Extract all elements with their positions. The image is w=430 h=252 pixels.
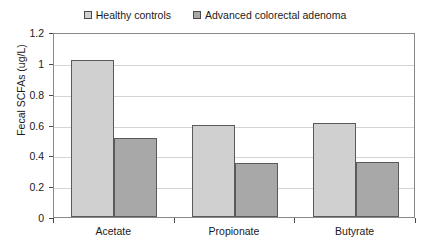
y-axis-tick-label: 1.2 xyxy=(8,28,44,39)
legend-entry-advanced-colorectal-adenoma: Advanced colorectal adenoma xyxy=(193,10,346,21)
chart-container: Healthy controls Advanced colorectal ade… xyxy=(0,0,430,252)
y-axis-tick-label: 0.8 xyxy=(8,90,44,101)
y-axis-tick-label: 1 xyxy=(8,59,44,70)
y-axis-tick-label: 0 xyxy=(8,213,44,224)
x-axis-tick-mark xyxy=(53,218,54,223)
x-axis-tick-mark xyxy=(294,218,295,223)
y-axis-tick-label: 0.4 xyxy=(8,151,44,162)
bar xyxy=(356,162,399,217)
y-axis-tick-label: 0.2 xyxy=(8,182,44,193)
x-axis-tick-mark xyxy=(415,218,416,223)
x-axis-tick-mark xyxy=(174,218,175,223)
chart-legend: Healthy controls Advanced colorectal ade… xyxy=(0,10,430,21)
bar xyxy=(114,138,157,217)
y-axis-tick-label: 0.6 xyxy=(8,121,44,132)
bar xyxy=(192,125,235,217)
plot-area xyxy=(53,33,415,218)
legend-swatch-icon-advanced-colorectal-adenoma xyxy=(193,11,201,19)
x-axis-category-label: Propionate xyxy=(174,226,295,237)
legend-swatch-icon-healthy-controls xyxy=(84,11,92,19)
x-axis-category-label: Butyrate xyxy=(294,226,415,237)
x-axis-category-label: Acetate xyxy=(53,226,174,237)
legend-label-advanced-colorectal-adenoma: Advanced colorectal adenoma xyxy=(205,10,346,21)
bar xyxy=(71,60,114,217)
bar xyxy=(313,123,356,217)
legend-label-healthy-controls: Healthy controls xyxy=(96,10,171,21)
bar xyxy=(235,163,278,217)
legend-entry-healthy-controls: Healthy controls xyxy=(84,10,171,21)
